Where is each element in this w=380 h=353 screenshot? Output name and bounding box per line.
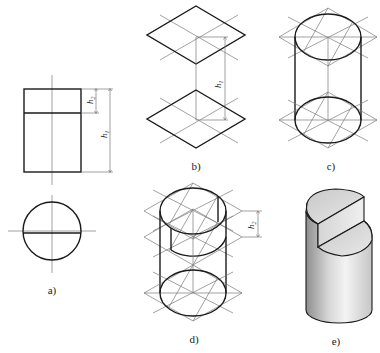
panel-label-d: d) <box>189 333 199 346</box>
dimension-label-h2: h2 <box>85 97 96 105</box>
panel-label-c: c) <box>327 160 336 173</box>
dimension-label-h2-d: h2 <box>246 222 257 230</box>
offset-ellipse-arc <box>171 237 226 256</box>
panel-a: h2 h1 a) <box>8 75 113 297</box>
front-view-outline <box>24 89 81 172</box>
figure-canvas: h2 h1 a) h1 b) <box>0 0 380 353</box>
top-view <box>8 195 96 273</box>
panel-label-a: a) <box>48 284 57 297</box>
panel-e: e) <box>306 189 372 348</box>
panel-c: c) <box>279 8 377 173</box>
panel-d: h2 d) <box>144 183 262 346</box>
panel-b: h1 b) <box>147 6 245 173</box>
dimension-label-h1: h1 <box>99 131 110 139</box>
dimension-label-h1-b: h1 <box>213 81 224 89</box>
panel-label-e: e) <box>332 335 341 348</box>
front-view: h2 h1 <box>24 75 113 185</box>
panel-label-b: b) <box>191 160 201 173</box>
